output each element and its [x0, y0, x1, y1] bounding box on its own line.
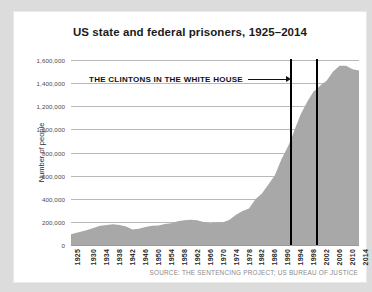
x-tick-label: 1978 — [246, 249, 253, 265]
y-tick-label: 400,000 — [42, 195, 65, 202]
x-tick-label: 1970 — [220, 249, 227, 265]
chart-card: US state and federal prisoners, 1925–201… — [14, 12, 366, 282]
gridline: 0 — [71, 245, 359, 246]
x-tick-label: 2010 — [349, 249, 356, 265]
annotation-leader-line — [248, 79, 286, 80]
x-tick-label: 2002 — [323, 249, 330, 265]
y-tick-label: 1,600,000 — [37, 57, 65, 64]
y-tick-label: 0 — [61, 242, 65, 249]
x-tick-label: 1930 — [90, 249, 97, 265]
x-tick-label: 1958 — [181, 249, 188, 265]
annotation-clintons: THE CLINTONS IN THE WHITE HOUSE — [89, 74, 291, 84]
arrow-right-icon — [286, 76, 291, 82]
x-tick-label: 1998 — [310, 249, 317, 265]
marker-line — [316, 59, 318, 245]
x-tick-label: 1990 — [284, 249, 291, 265]
y-tick-label: 600,000 — [42, 172, 65, 179]
source-note: SOURCE: THE SENTENCING PROJECT; US BUREA… — [150, 269, 358, 276]
x-tick-label: 2006 — [336, 249, 343, 265]
plot-area: 1,600,0001,400,0001,200,0001,000,000800,… — [71, 60, 359, 245]
x-tick-label: 1974 — [233, 249, 240, 265]
marker-line — [290, 59, 292, 245]
y-tick-label: 800,000 — [42, 149, 65, 156]
y-tick-label: 1,400,000 — [37, 80, 65, 87]
x-tick-label: 2014 — [362, 249, 369, 265]
x-tick-label: 1954 — [168, 249, 175, 265]
y-tick-label: 1,000,000 — [37, 126, 65, 133]
y-tick-label: 1,200,000 — [37, 103, 65, 110]
x-tick-label: 1986 — [271, 249, 278, 265]
x-tick-label: 1946 — [142, 249, 149, 265]
x-tick-label: 1950 — [155, 249, 162, 265]
x-tick-label: 1938 — [116, 249, 123, 265]
x-tick-label: 1925 — [74, 249, 81, 265]
x-tick-label: 1934 — [103, 249, 110, 265]
y-tick-label: 200,000 — [42, 218, 65, 225]
x-tick-label: 1966 — [207, 249, 214, 265]
x-tick-label: 1962 — [194, 249, 201, 265]
chart-title: US state and federal prisoners, 1925–201… — [14, 26, 366, 38]
x-tick-label: 1982 — [258, 249, 265, 265]
x-tick-label: 1942 — [129, 249, 136, 265]
x-tick-label: 1994 — [297, 249, 304, 265]
annotation-label: THE CLINTONS IN THE WHITE HOUSE — [89, 75, 243, 84]
